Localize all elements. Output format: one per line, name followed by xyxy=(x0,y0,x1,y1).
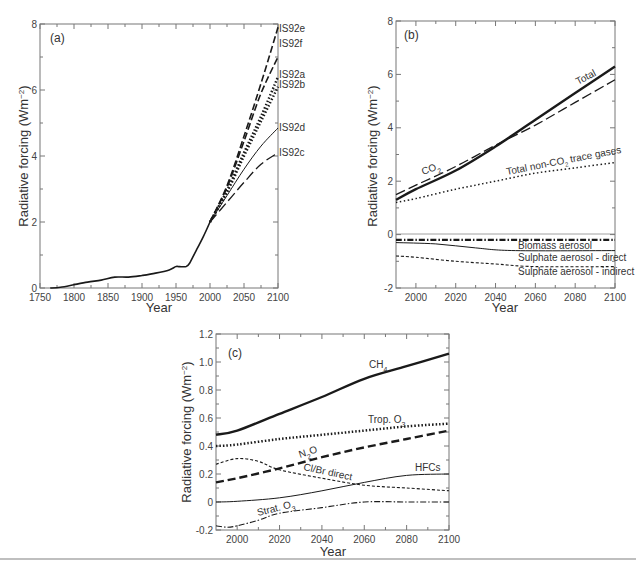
y-tick-label: 0.2 xyxy=(199,469,213,480)
label-sulphate-direct: Sulphate aerosol - direct xyxy=(518,252,627,263)
label-is92d: IS92d xyxy=(279,122,305,133)
series-ch4 xyxy=(216,354,449,435)
y-tick-label: 2 xyxy=(387,176,393,187)
panel-a-series xyxy=(50,27,278,288)
label-is92b: IS92b xyxy=(279,79,306,90)
panel-c-xlabel: Year xyxy=(320,544,347,559)
panel-c-label: (c) xyxy=(228,346,242,360)
panel-b: 200020202040206020802100-202468 (b) Year… xyxy=(365,16,634,316)
panel-a-xlabel: Year xyxy=(146,300,173,315)
label-hfcs: HFCs xyxy=(415,462,441,473)
series-historical xyxy=(50,222,210,288)
label-is92e: IS92e xyxy=(279,23,306,34)
x-tick-label: 2050 xyxy=(233,292,256,303)
y-tick-label: 1.0 xyxy=(199,357,213,368)
label-co2: CO2 xyxy=(420,160,442,179)
x-tick-label: 2000 xyxy=(405,292,428,303)
x-tick-label: 2100 xyxy=(267,292,290,303)
y-tick-label: -0.2 xyxy=(196,525,214,536)
y-tick-label: 0 xyxy=(207,497,213,508)
panel-b-xlabel: Year xyxy=(492,300,519,315)
y-tick-label: 1.2 xyxy=(199,329,213,340)
x-tick-label: 2100 xyxy=(438,534,461,545)
y-tick-label: 8 xyxy=(31,19,37,30)
series-is92c xyxy=(210,153,278,222)
y-tick-label: 0.6 xyxy=(199,413,213,424)
y-tick-label: 0 xyxy=(387,229,393,240)
series-trop-o3 xyxy=(216,424,449,446)
x-tick-label: 1800 xyxy=(63,292,86,303)
series-strat-o3 xyxy=(216,502,449,528)
label-total: Total xyxy=(574,67,598,87)
label-strat-o3: Strat. O3 xyxy=(256,498,297,520)
panel-b-label: (b) xyxy=(404,28,419,42)
x-tick-label: 2080 xyxy=(396,534,419,545)
panel-a-frame xyxy=(40,24,278,288)
panel-a-label: (a) xyxy=(50,31,65,45)
x-tick-label: 2080 xyxy=(564,292,587,303)
label-biomass-aerosol: Biomass aerosol xyxy=(518,240,592,251)
series-co2 xyxy=(396,80,615,195)
x-tick-label: 2000 xyxy=(199,292,222,303)
panel-a-ylabel: Radiative forcing (Wm−2) xyxy=(16,85,31,226)
y-tick-label: 8 xyxy=(387,16,393,27)
panel-c-series xyxy=(216,354,449,528)
y-tick-label: 0.8 xyxy=(199,385,213,396)
label-trop-o3: Trop. O3 xyxy=(368,414,406,428)
x-tick-label: 2100 xyxy=(604,292,627,303)
label-is92c: IS92c xyxy=(279,147,305,158)
y-tick-label: -2 xyxy=(384,283,393,294)
label-non-co2: Total non-CO2 trace gases xyxy=(505,144,622,179)
panel-b-ylabel: Radiative forcing (Wm−2) xyxy=(365,85,380,226)
x-tick-label: 2060 xyxy=(524,292,547,303)
panel-c: 200020202040206020802100-0.200.20.40.60.… xyxy=(179,329,461,560)
series-is92f xyxy=(210,57,278,222)
y-tick-label: 2 xyxy=(31,217,37,228)
x-tick-label: 2060 xyxy=(353,534,376,545)
y-tick-label: 0.4 xyxy=(199,441,213,452)
y-tick-label: 6 xyxy=(387,69,393,80)
y-tick-label: 6 xyxy=(31,85,37,96)
panel-c-ylabel: Radiative forcing (Wm−2) xyxy=(179,361,194,502)
x-tick-label: 1750 xyxy=(29,292,52,303)
x-tick-label: 1850 xyxy=(97,292,120,303)
x-tick-label: 2020 xyxy=(445,292,468,303)
x-tick-label: 2020 xyxy=(268,534,291,545)
series-is92e xyxy=(210,27,278,222)
y-tick-label: 0 xyxy=(31,283,37,294)
y-tick-label: 4 xyxy=(31,151,37,162)
y-tick-label: 4 xyxy=(387,122,393,133)
label-is92f: IS92f xyxy=(279,38,303,49)
figure-canvas: 1750180018501900195020002050210002468 (a… xyxy=(0,0,636,571)
label-ch4: CH4 xyxy=(369,359,387,373)
panel-a: 1750180018501900195020002050210002468 (a… xyxy=(16,19,306,316)
x-tick-label: 2000 xyxy=(226,534,249,545)
label-sulphate-indirect: Sulphate aerosol - indirect xyxy=(518,266,634,277)
